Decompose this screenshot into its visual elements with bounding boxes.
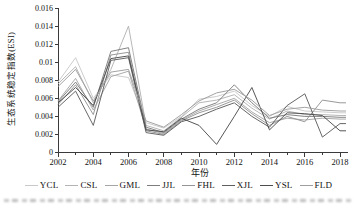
y-tick-label: 0.01 bbox=[39, 58, 53, 67]
legend-label: XJL bbox=[237, 180, 253, 190]
y-tick-label: 0.002 bbox=[35, 130, 53, 139]
series-line-XJL bbox=[58, 58, 346, 137]
y-tick-label: 0.012 bbox=[35, 40, 53, 49]
legend-line-swatch bbox=[105, 185, 118, 186]
y-tick-label: 0 bbox=[49, 148, 53, 157]
legend-item-YCL: YCL bbox=[25, 180, 59, 190]
legend-label: JJL bbox=[162, 180, 175, 190]
legend-line-swatch bbox=[182, 185, 195, 186]
legend-item-JJL: JJL bbox=[147, 180, 175, 190]
legend-label: GML bbox=[120, 180, 141, 190]
y-axis-title: 生态系统稳定指数(ESI) bbox=[4, 9, 18, 149]
legend-line-swatch bbox=[25, 185, 38, 186]
axis-tick-labels: 00.0020.0040.0060.0080.010.0120.0140.016… bbox=[35, 4, 349, 167]
legend-label: YSL bbox=[275, 180, 293, 190]
legend-line-swatch bbox=[260, 185, 273, 186]
series-line-YCL bbox=[58, 58, 346, 128]
y-tick-label: 0.006 bbox=[35, 94, 53, 103]
legend-line-swatch bbox=[300, 185, 313, 186]
x-axis-title: 年份 bbox=[58, 166, 342, 179]
y-tick-label: 0.014 bbox=[35, 22, 53, 31]
legend-item-GML: GML bbox=[105, 180, 141, 190]
series-line-FHL bbox=[58, 52, 346, 134]
chart-legend: YCLCSLGMLJJLFHLXJLYSLFLD bbox=[0, 180, 357, 190]
legend-item-CSL: CSL bbox=[65, 180, 97, 190]
legend-label: YCL bbox=[40, 180, 59, 190]
legend-label: CSL bbox=[80, 180, 97, 190]
legend-item-YSL: YSL bbox=[260, 180, 293, 190]
legend-item-FLD: FLD bbox=[300, 180, 333, 190]
figure-ecosystem-stability-chart: 00.0020.0040.0060.0080.010.0120.0140.016… bbox=[0, 0, 357, 204]
legend-line-swatch bbox=[65, 185, 78, 186]
cropped-caption-text-artifact bbox=[4, 199, 353, 202]
legend-label: FHL bbox=[197, 180, 215, 190]
y-tick-label: 0.016 bbox=[35, 4, 53, 13]
data-series-lines bbox=[58, 26, 346, 144]
legend-line-swatch bbox=[147, 185, 160, 186]
legend-item-XJL: XJL bbox=[222, 180, 253, 190]
legend-line-swatch bbox=[222, 185, 235, 186]
legend-label: FLD bbox=[315, 180, 333, 190]
legend-item-FHL: FHL bbox=[182, 180, 215, 190]
y-tick-label: 0.004 bbox=[35, 112, 53, 121]
axes bbox=[55, 8, 348, 157]
y-tick-label: 0.008 bbox=[35, 76, 53, 85]
